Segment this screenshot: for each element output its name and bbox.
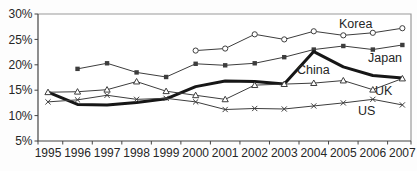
circle-marker <box>400 26 405 31</box>
square-marker <box>400 43 404 47</box>
y-axis-label: 15% <box>8 83 32 97</box>
x-axis-label: 1995 <box>35 146 62 160</box>
series-label-japan: Japan <box>368 51 402 65</box>
x-axis-label: 2006 <box>359 146 386 160</box>
circle-marker <box>252 32 257 37</box>
square-marker <box>341 44 345 48</box>
y-axis-label: 25% <box>8 33 32 47</box>
x-axis-label: 1999 <box>153 146 180 160</box>
square-marker <box>164 75 168 79</box>
circle-marker <box>193 48 198 53</box>
y-axis-label: 30% <box>8 7 32 21</box>
x-axis-label: 2007 <box>389 146 416 160</box>
x-axis-label: 1998 <box>123 146 150 160</box>
chart-figure: 5%10%15%20%25%30%19951996199719981999200… <box>0 0 417 171</box>
y-axis-label: 5% <box>15 134 33 148</box>
x-axis-label: 1997 <box>94 146 121 160</box>
x-axis-label: 1996 <box>64 146 91 160</box>
series-label-us: US <box>358 104 375 118</box>
square-marker <box>134 70 138 74</box>
square-marker <box>105 61 109 65</box>
x-axis-label: 2002 <box>241 146 268 160</box>
x-axis-label: 2001 <box>212 146 239 160</box>
x-axis-label: 2004 <box>300 146 327 160</box>
circle-marker <box>282 37 287 42</box>
circle-marker <box>223 46 228 51</box>
square-marker <box>193 62 197 66</box>
x-axis-label: 2005 <box>330 146 357 160</box>
x-axis-label: 2000 <box>182 146 209 160</box>
y-axis-label: 20% <box>8 58 32 72</box>
series-label-korea: Korea <box>339 17 372 31</box>
circle-marker <box>311 29 316 34</box>
square-marker <box>282 55 286 59</box>
line-chart: 5%10%15%20%25%30%19951996199719981999200… <box>0 0 417 171</box>
plot-area <box>38 14 411 141</box>
square-marker <box>253 61 257 65</box>
y-axis-label: 10% <box>8 109 32 123</box>
circle-marker <box>341 33 346 38</box>
square-marker <box>75 67 79 71</box>
square-marker <box>223 63 227 67</box>
x-axis-label: 2003 <box>271 146 298 160</box>
series-label-uk: UK <box>375 84 393 98</box>
series-label-china: China <box>297 63 330 77</box>
